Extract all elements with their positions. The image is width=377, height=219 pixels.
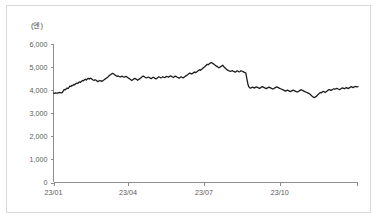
chart-container: 01,0002,0003,0004,0005,0006,000 23/0123/…	[0, 0, 377, 219]
x-axis: 23/0123/0423/0723/10	[45, 183, 359, 197]
y-axis: 01,0002,0003,0004,0005,0006,000	[30, 40, 54, 188]
y-tick-label: 1,000	[30, 155, 48, 164]
x-tick-label: 23/10	[271, 188, 289, 197]
x-tick-label: 23/07	[195, 188, 213, 197]
y-tick-label: 0	[44, 178, 48, 187]
line-chart-plot: 01,0002,0003,0004,0005,0006,000 23/0123/…	[0, 0, 377, 219]
data-series-group	[54, 62, 359, 97]
x-tick-label: 23/01	[45, 188, 63, 197]
y-tick-label: 2,000	[30, 132, 48, 141]
x-tick-label: 23/04	[119, 188, 137, 197]
y-axis-ticks: 01,0002,0003,0004,0005,0006,000	[30, 40, 54, 188]
series-line	[54, 62, 359, 97]
y-tick-label: 3,000	[30, 109, 48, 118]
y-tick-label: 5,000	[30, 63, 48, 72]
x-axis-ticks: 23/0123/0423/0723/10	[45, 183, 358, 197]
y-tick-label: 4,000	[30, 86, 48, 95]
y-axis-unit-label: (엔)	[31, 21, 43, 30]
y-tick-label: 6,000	[30, 40, 48, 49]
